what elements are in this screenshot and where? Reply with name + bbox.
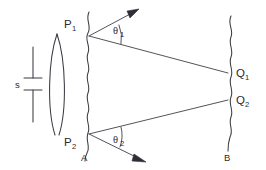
label-q1: Q (236, 67, 245, 79)
diagram-canvas: P 1 P 2 Q 1 Q 2 A B s θ 1 θ 2 (0, 0, 266, 170)
source-size-bracket (24, 47, 42, 122)
label-p2-subscript: 2 (72, 142, 76, 151)
arrow-p1-head (127, 9, 139, 18)
ray-p2-to-q2 (89, 100, 228, 134)
label-plane-a: A (81, 152, 88, 163)
label-theta1-subscript: 1 (120, 30, 124, 39)
label-q2-subscript: 2 (245, 100, 249, 109)
arrow-p2-head (132, 154, 146, 162)
label-q1-subscript: 1 (245, 73, 249, 82)
arrow-p1-shaft (89, 13, 132, 36)
label-source-size: s (15, 79, 20, 90)
diffraction-diagram: P 1 P 2 Q 1 Q 2 A B s θ 1 θ 2 (0, 0, 266, 170)
label-theta2: θ (113, 134, 118, 145)
lens-right-surface (57, 34, 64, 135)
label-p1: P (64, 18, 72, 30)
ray-p1-to-q1 (89, 36, 228, 73)
wavy-plane-b (228, 16, 232, 151)
label-p1-subscript: 1 (72, 24, 76, 33)
label-theta1: θ (113, 25, 118, 36)
label-theta2-subscript: 2 (120, 139, 124, 148)
biconvex-lens (50, 34, 65, 135)
label-plane-b: B (224, 152, 230, 163)
wavy-plane-a (85, 12, 89, 161)
lens-left-surface (50, 34, 57, 135)
label-p2: P (64, 136, 72, 148)
label-q2: Q (236, 94, 245, 106)
